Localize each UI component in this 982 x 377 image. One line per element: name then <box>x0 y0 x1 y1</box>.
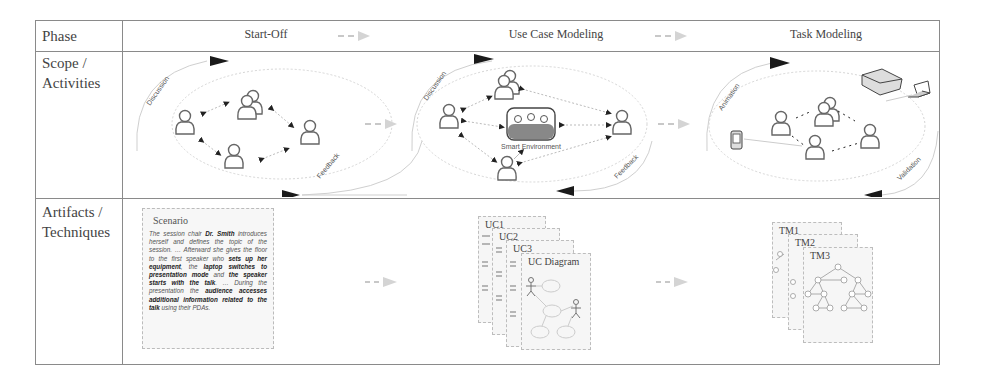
row-label-artifacts-line2: Techniques <box>42 222 110 242</box>
phase-start-off: Start-Off <box>186 27 346 42</box>
laptop-icon <box>908 81 930 97</box>
phase-task-modeling: Task Modeling <box>746 27 906 42</box>
scenario-text: The session chair Dr. Smith introduces h… <box>149 230 267 312</box>
phase-use-case-modeling: Use Case Modeling <box>456 27 656 42</box>
svg-text:Animation: Animation <box>717 82 741 112</box>
scope-transition-arrow-icon <box>658 119 690 129</box>
row-label-artifacts-line1: Artifacts / <box>42 202 110 222</box>
scenario-document: Scenario The session chair Dr. Smith int… <box>142 208 274 349</box>
phase-transition-arrow-icon <box>655 30 699 42</box>
use-case-scope-diagram: Discussion Feedback Smart Environment <box>412 54 652 196</box>
svg-text:Feedback: Feedback <box>315 151 340 179</box>
row-label-artifacts: Artifacts / Techniques <box>42 202 110 242</box>
row-label-scope: Scope / Activities <box>42 53 100 93</box>
phase-transition-arrow-icon <box>338 30 382 42</box>
svg-text:Discussion: Discussion <box>422 70 447 102</box>
artifact-transition-arrow-icon <box>365 276 409 288</box>
scenario-title: Scenario <box>153 215 267 226</box>
actor-icon <box>526 278 536 297</box>
svg-text:Smart Environment: Smart Environment <box>501 143 561 150</box>
row-label-scope-line1: Scope / <box>42 53 100 73</box>
smart-environment-icon <box>507 108 555 140</box>
projector-icon <box>862 69 902 95</box>
artifact-transition-arrow-icon <box>656 276 700 288</box>
use-case-doc-decorations <box>478 216 598 356</box>
pda-icon <box>731 131 742 149</box>
svg-text:Discussion: Discussion <box>145 75 170 107</box>
start-off-scope-diagram: Discussion Feedback <box>137 56 422 197</box>
svg-text:Validation: Validation <box>896 155 922 181</box>
actor-icon <box>571 300 581 319</box>
scope-activities-diagram: Discussion Feedback Discussion Feedback <box>122 51 940 197</box>
row-divider-scope <box>36 198 939 199</box>
task-scope-diagram: Animation Validation <box>707 57 938 197</box>
task-tree-diagram <box>772 222 882 352</box>
row-label-scope-line2: Activities <box>42 73 100 93</box>
row-label-phase: Phase <box>42 26 77 46</box>
